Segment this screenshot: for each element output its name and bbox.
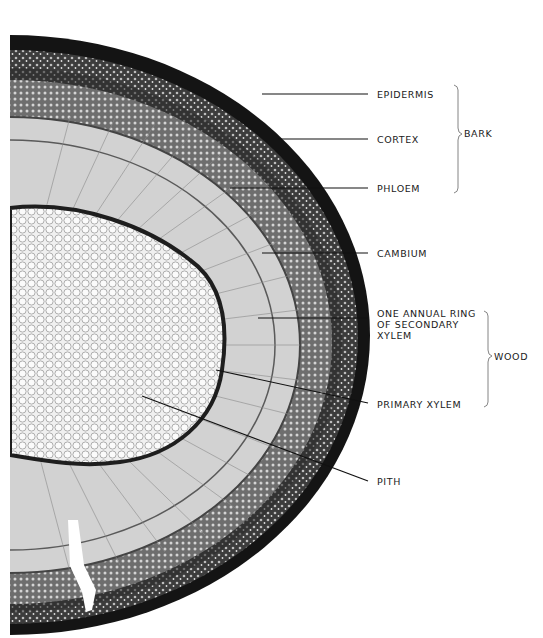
label-bark: BARK	[464, 128, 492, 139]
stem-cross-section-figure: EPIDERMIS CORTEX PHLOEM BARK CAMBIUM ONE…	[0, 0, 543, 638]
label-wood: WOOD	[494, 351, 528, 362]
label-annual-ring: ONE ANNUAL RING OF SECONDARY XYLEM	[377, 308, 476, 341]
label-pith: PITH	[377, 476, 401, 487]
label-cambium: CAMBIUM	[377, 248, 427, 259]
label-cortex: CORTEX	[377, 134, 419, 145]
bark-bracket	[454, 85, 462, 193]
wood-bracket	[484, 311, 492, 407]
label-primary-xylem: PRIMARY XYLEM	[377, 399, 461, 410]
label-epidermis: EPIDERMIS	[377, 89, 434, 100]
label-phloem: PHLOEM	[377, 183, 420, 194]
stem-section	[0, 35, 370, 635]
